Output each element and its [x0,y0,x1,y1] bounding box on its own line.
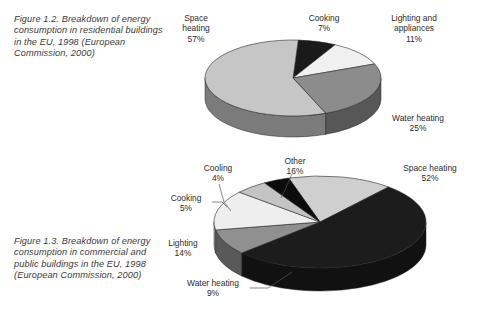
pie-label-lighting-name2: appliances [394,23,434,33]
pie-label-space-heating-name1: Space [184,13,208,23]
pie-label-lighting-2-name: Lighting [168,238,197,248]
figure-1-2: Figure 1.2. Breakdown of energy consumpt… [0,0,482,160]
pie-label-cooling-name: Cooling [204,163,232,173]
pie-label-lighting-2-pct: 14% [157,248,209,258]
pie-label-cooling: Cooling 4% [192,163,244,184]
pie-label-lighting-2: Lighting 14% [157,238,209,259]
pie-label-space-heating: Space heating 57% [172,13,220,44]
pie-label-water-heating-2-name: Water heating [187,278,239,288]
pie-label-cooking-2: Cooking 5% [160,193,212,214]
pie-label-water-heating: Water heating 25% [381,113,455,134]
pie-label-lighting-pct: 11% [377,34,451,44]
pie-label-space-heating-pct: 57% [172,34,220,44]
figure-1-3: Figure 1.3. Breakdown of energy consumpt… [0,150,482,319]
pie-label-water-heating-pct: 25% [381,123,455,133]
pie-label-water-heating-name: Water heating [392,113,444,123]
pie-label-cooking-2-pct: 5% [160,203,212,213]
pie-top-faces [205,40,381,116]
pie-top-faces [214,176,426,268]
pie-label-lighting-name1: Lighting and [391,13,437,23]
pie-label-water-heating-2: Water heating 9% [175,278,251,299]
pie-label-cooking-2-name: Cooking [171,193,202,203]
pie-label-cooling-pct: 4% [192,173,244,183]
pie-label-space-heating-2-pct: 52% [389,173,471,183]
pie-label-other-pct: 16% [273,166,317,176]
pie-label-space-heating-2: Space heating 52% [389,163,471,184]
pie-label-other-name: Other [285,156,306,166]
pie-label-other: Other 16% [273,156,317,177]
pie-label-space-heating-name2: heating [182,23,209,33]
pie-label-cooking-pct: 7% [300,23,348,33]
pie-label-water-heating-2-pct: 9% [175,288,251,298]
pie-label-lighting-appliances: Lighting and appliances 11% [377,13,451,44]
pie-label-cooking: Cooking 7% [300,13,348,34]
pie-label-cooking-name: Cooking [309,13,340,23]
pie-label-space-heating-2-name: Space heating [403,163,457,173]
